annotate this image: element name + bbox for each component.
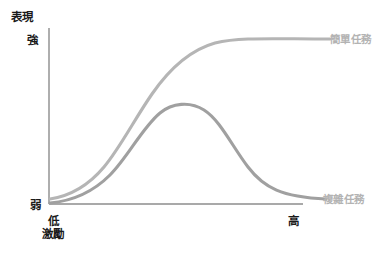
y-axis-tick-low: 弱 — [30, 196, 41, 212]
y-axis-title: 表現 — [11, 11, 33, 24]
complex-task-curve-label: 複雜任務 — [323, 191, 364, 206]
x-axis-tick-high: 高 — [288, 212, 299, 228]
complex-task-curve — [50, 104, 326, 203]
x-axis-title: 激勵 — [42, 228, 64, 241]
simple-task-curve — [50, 39, 330, 199]
y-axis-tick-high: 強 — [27, 31, 38, 47]
x-axis-tick-low: 低 — [48, 212, 59, 228]
simple-task-curve-label: 簡單任務 — [330, 31, 371, 46]
yerkes-dodson-chart: 表現 強 弱 低 激勵 高 簡單任務 複雜任務 — [0, 0, 386, 253]
